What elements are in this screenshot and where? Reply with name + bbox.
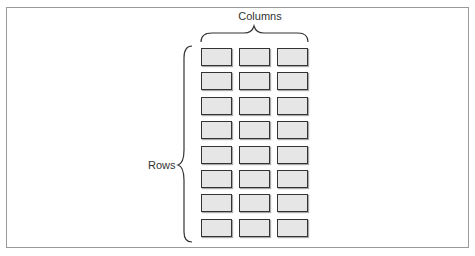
grid-cell — [201, 194, 232, 212]
grid-cell — [239, 97, 270, 115]
grid-cell — [277, 146, 308, 164]
braces — [0, 0, 475, 256]
grid-cell — [277, 170, 308, 188]
grid-cell — [201, 146, 232, 164]
columns-brace — [201, 26, 308, 42]
grid-cell — [277, 219, 308, 237]
grid-cell — [277, 72, 308, 90]
grid-cell — [277, 97, 308, 115]
grid-cell — [239, 170, 270, 188]
grid-cell — [277, 194, 308, 212]
grid-cell — [201, 97, 232, 115]
grid-cell — [239, 121, 270, 139]
grid-cell — [201, 219, 232, 237]
grid-cell — [201, 170, 232, 188]
grid-cell — [201, 48, 232, 66]
rows-brace — [178, 46, 192, 242]
grid-cell — [239, 146, 270, 164]
grid-cell — [201, 121, 232, 139]
grid-cell — [239, 194, 270, 212]
grid-cell — [277, 48, 308, 66]
grid-cell — [277, 121, 308, 139]
grid-cell — [239, 48, 270, 66]
grid-cell — [239, 219, 270, 237]
grid-cell — [239, 72, 270, 90]
grid-cell — [201, 72, 232, 90]
